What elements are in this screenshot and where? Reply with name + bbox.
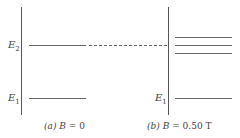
panel-a-e1-label: E1 [8,93,20,107]
caption-variable: B [163,121,170,131]
caption-tag: (a) [44,121,56,131]
caption-tag: (b) [147,121,160,131]
panel-b-split-level-upper [175,37,232,38]
panel-b-caption: (b) B = 0.50 T [147,121,211,131]
panel-a-caption: (a) B = 0 [44,121,85,131]
e2-connector-dashed-line [89,45,167,46]
panel-a-e1-level [29,98,86,99]
panel-b-energy-axis [168,7,169,115]
caption-variable: B [59,121,66,131]
e2-subscript: 2 [15,45,19,53]
panel-a-energy-axis [21,7,22,115]
panel-b-e1-label: E1 [155,93,167,107]
panel-a-e2-level [29,45,86,46]
caption-value: = 0.50 T [172,121,211,131]
panel-b-split-level-middle [175,45,232,46]
e1-subscript: 1 [162,98,166,106]
panel-b-e1-level [175,98,232,99]
caption-value: = 0 [69,121,85,131]
panel-a-e2-label: E2 [8,40,20,54]
e1-subscript: 1 [15,98,19,106]
panel-b-split-level-lower [175,53,232,54]
